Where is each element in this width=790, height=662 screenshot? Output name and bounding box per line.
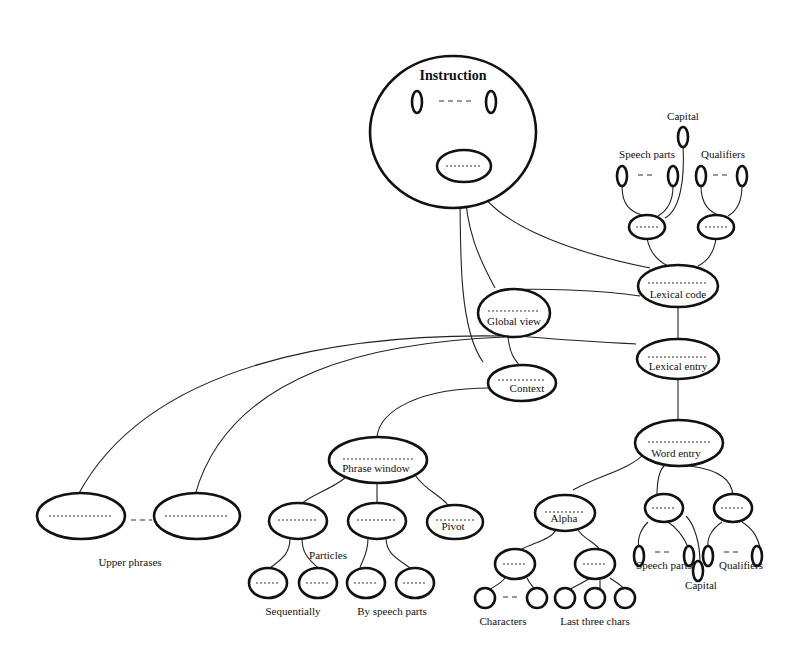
lexical-entry-node: Lexical entry [637,339,719,379]
by-speech-parts-label: By speech parts [357,605,427,617]
last-three-chars-label: Last three chars [560,615,630,627]
lexical-code-label: Lexical code [650,288,707,300]
lexical-code-subtree: Capital Speech parts Qualifiers [617,110,747,239]
phrase-window-node: Phrase window [329,437,427,483]
capital-top-label: Capital [667,110,699,122]
lexical-entry-label: Lexical entry [649,360,708,372]
phrase-window-subtree: Pivot Particles Sequentially By speech p… [249,503,483,617]
word-entry-label: Word entry [651,447,701,459]
context-label: Context [510,382,545,394]
pivot-label: Pivot [441,520,464,532]
instruction-node: Instruction [370,56,536,208]
sequentially-label: Sequentially [266,605,321,617]
qualifiers-bottom-label: Qualifiers [719,559,763,571]
qualifiers-top-label: Qualifiers [701,148,745,160]
alpha-label: Alpha [551,512,578,524]
context-node: Context [488,365,556,401]
global-view-label: Global view [487,315,541,327]
characters-label: Characters [479,615,526,627]
global-view-node: Global view [478,289,550,337]
lexical-code-node: Lexical code [638,265,718,307]
instruction-title: Instruction [420,68,487,83]
diagram-canvas: Instruction Capital Speech parts Qualifi… [0,0,790,662]
speech-parts-top-label: Speech parts [619,148,675,160]
phrase-window-label: Phrase window [342,462,410,474]
alpha-node: Alpha [535,495,595,531]
alpha-subtree: Characters Last three chars [475,549,635,627]
upper-phrases-group: Upper phrases [37,493,240,568]
capital-bottom-label: Capital [685,579,717,591]
word-entry-node: Word entry [635,420,723,466]
upper-phrases-label: Upper phrases [98,556,161,568]
particles-label: Particles [309,549,347,561]
speech-parts-bottom-label: Speech parts [636,559,692,571]
